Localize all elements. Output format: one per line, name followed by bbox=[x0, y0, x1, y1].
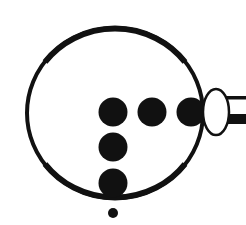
diagram-canvas bbox=[0, 0, 246, 225]
port-ellipse bbox=[203, 89, 229, 135]
dot-right-1 bbox=[138, 98, 167, 127]
dot-down-1 bbox=[99, 133, 128, 162]
dot-right-2 bbox=[177, 98, 206, 127]
dot-center bbox=[99, 98, 128, 127]
dot-down-2 bbox=[99, 169, 128, 198]
outer-ring-top-thickening bbox=[45, 29, 185, 62]
small-dot bbox=[108, 208, 118, 218]
